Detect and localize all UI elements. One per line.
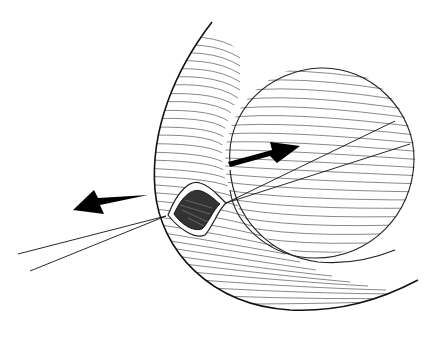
sphere-hatching <box>225 62 425 261</box>
outer-wall-curve <box>154 22 418 310</box>
tissue-opening <box>168 182 226 236</box>
right-arrow-icon <box>228 142 300 167</box>
inner-wall-curve <box>230 170 395 263</box>
anatomical-illustration <box>0 0 427 343</box>
illustration-canvas <box>0 0 427 343</box>
left-arrow-icon <box>73 190 148 214</box>
left-guide-lines <box>18 216 166 271</box>
sphere-outline <box>230 68 414 258</box>
